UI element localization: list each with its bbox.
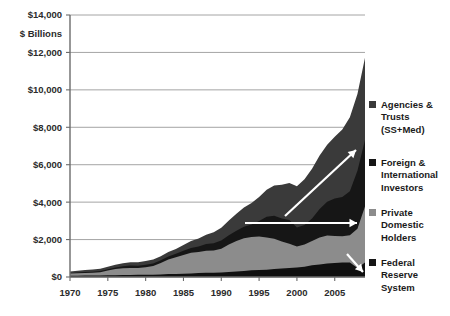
legend-item-label: International xyxy=(381,169,438,180)
legend-item-label: Holders xyxy=(381,232,416,243)
x-axis-tick-label: 1970 xyxy=(59,287,80,298)
legend-item-label: Domestic xyxy=(381,219,424,230)
y-axis-unit-label: $ Billions xyxy=(20,28,62,39)
legend-swatch xyxy=(369,101,376,108)
y-axis-tick-label: $14,000 xyxy=(28,9,62,20)
x-axis-tick-label: 1985 xyxy=(173,287,195,298)
y-axis-tick-label: $8,000 xyxy=(33,122,62,133)
x-axis-tick-label: 1980 xyxy=(135,287,156,298)
chart-container: $14,000$12,000$10,000$8,000$6,000$4,000$… xyxy=(0,0,450,316)
legend-item-label: Trusts xyxy=(381,111,410,122)
legend-item-label: Private xyxy=(381,207,413,218)
y-axis-tick-label: $6,000 xyxy=(33,159,62,170)
legend-swatch xyxy=(369,209,376,216)
legend-item-label: Foreign & xyxy=(381,157,425,168)
y-axis-tick-label: $10,000 xyxy=(28,84,62,95)
x-axis-tick-label: 2005 xyxy=(324,287,346,298)
y-axis-tick-label: $12,000 xyxy=(28,47,62,58)
legend-swatch xyxy=(369,259,376,266)
y-axis-tick-label: $0 xyxy=(51,271,62,282)
stacked-area-chart: $14,000$12,000$10,000$8,000$6,000$4,000$… xyxy=(0,0,450,316)
legend-item-label: Federal xyxy=(381,257,415,268)
legend-swatch xyxy=(369,159,376,166)
legend-item-label: System xyxy=(381,282,415,293)
y-axis-tick-label: $4,000 xyxy=(33,197,62,208)
y-axis-unit-label-text: $ Billions xyxy=(20,28,62,39)
x-axis-tick-label: 2000 xyxy=(286,287,307,298)
x-axis-tick-label: 1975 xyxy=(97,287,119,298)
x-axis-tick-label: 1995 xyxy=(249,287,271,298)
legend-item-label: Investors xyxy=(381,182,423,193)
x-axis-tick-label: 1990 xyxy=(211,287,232,298)
legend-item-label: (SS+Med) xyxy=(381,124,425,135)
legend-item-label: Reserve xyxy=(381,269,418,280)
legend-item-label: Agencies & xyxy=(381,99,433,110)
y-axis-tick-label: $2,000 xyxy=(33,234,62,245)
